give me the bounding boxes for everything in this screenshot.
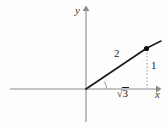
hypotenuse-length-label: 2 [114,48,120,59]
x-axis-label: x [155,89,160,100]
radicand: 3 [122,87,129,99]
opposite-length-label: 1 [151,60,157,71]
coordinate-diagram [0,0,166,127]
y-axis [83,6,90,123]
y-axis-label: y [75,5,80,16]
figure-canvas: y x 2 1 √3 [0,0,166,127]
adjacent-length-label: √3 [117,87,129,99]
y-axis-arrowhead [83,6,90,12]
angle-arc [104,82,107,90]
ray-extension [147,41,161,48]
terminal-point-dot [144,46,149,51]
